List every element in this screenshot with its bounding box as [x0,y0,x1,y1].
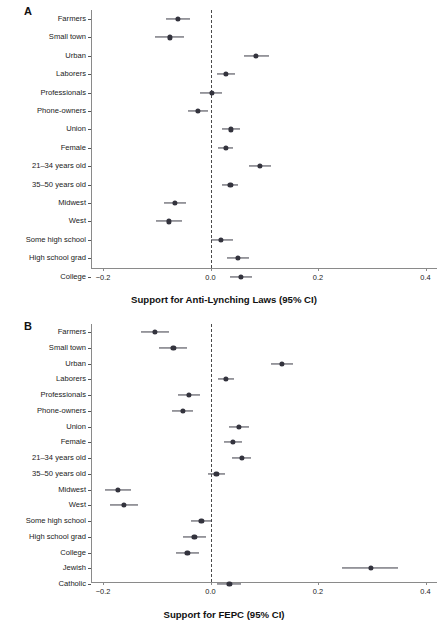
category-label: Female [61,144,86,152]
zero-reference-line [211,10,212,268]
x-axis-tick-label: 0.2 [313,273,323,282]
point-estimate-marker [115,487,120,492]
point-estimate-marker [236,424,241,429]
category-label: Some high school [26,236,86,244]
panel-a-plot-area: −0.20.00.20.4 [91,10,437,278]
y-axis-tick [88,19,91,20]
y-axis-tick [88,505,91,506]
x-axis-tick [318,268,319,271]
category-label: Phone-owners [37,407,86,415]
y-axis-tick [88,364,91,365]
panel-a: A −0.20.00.20.4 FarmersSmall townUrbanLa… [0,0,448,316]
category-label: Small town [49,33,86,41]
category-label: Professionals [40,89,86,97]
y-axis-tick [88,277,91,278]
x-axis-spine [91,582,437,583]
category-label: Laborers [56,70,86,78]
category-label: Farmers [58,328,86,336]
category-label: 35–50 years old [32,181,86,189]
point-estimate-marker [192,534,197,539]
category-label: Female [61,438,86,446]
y-axis-tick [88,185,91,186]
point-estimate-marker [121,503,126,508]
y-axis-tick [88,568,91,569]
category-label: Midwest [58,199,86,207]
category-label: Jewish [63,564,86,572]
point-estimate-marker [223,377,228,382]
point-estimate-marker [235,256,240,261]
y-axis-tick [88,584,91,585]
y-axis-tick [88,93,91,94]
category-label: Urban [65,360,86,368]
y-axis-tick [88,458,91,459]
category-label: West [69,217,86,225]
x-axis-tick [211,268,212,271]
y-axis-tick [88,490,91,491]
y-axis-tick [88,427,91,428]
x-axis-tick-label: 0.4 [420,587,430,596]
point-estimate-marker [167,35,172,40]
zero-reference-line [211,324,212,582]
point-estimate-marker [214,471,219,476]
point-estimate-marker [196,108,201,113]
point-estimate-marker [230,440,235,445]
point-estimate-marker [180,408,185,413]
category-label: 21–34 years old [32,162,86,170]
category-label: High school grad [29,533,86,541]
category-label: Farmers [58,15,86,23]
panel-a-letter: A [24,5,32,17]
category-label: Professionals [40,391,86,399]
panel-b: B −0.20.00.20.4 FarmersSmall townUrbanLa… [0,316,448,632]
y-axis-tick [88,395,91,396]
x-axis-tick [318,582,319,585]
y-axis-tick [88,442,91,443]
x-axis-tick-label: 0.2 [313,587,323,596]
point-estimate-marker [172,200,177,205]
y-axis-tick [88,379,91,380]
x-axis-tick [426,268,427,271]
point-estimate-marker [239,455,244,460]
point-estimate-marker [227,581,232,586]
category-label: High school grad [29,254,86,262]
x-axis-tick-label: 0.0 [205,587,215,596]
y-axis-tick [88,258,91,259]
category-label: Laborers [56,375,86,383]
x-axis-tick-label: 0.0 [205,273,215,282]
point-estimate-marker [175,16,180,21]
point-estimate-marker [152,329,157,334]
point-estimate-marker [228,182,233,187]
x-axis-tick [103,268,104,271]
category-label: Small town [49,344,86,352]
y-axis-tick [88,537,91,538]
category-label: Phone-owners [37,107,86,115]
y-axis-tick [88,203,91,204]
y-axis-tick [88,411,91,412]
x-axis-tick [211,582,212,585]
x-axis-spine [91,268,437,269]
y-axis-tick [88,553,91,554]
y-axis-tick [88,221,91,222]
y-axis-tick [88,111,91,112]
category-label: College [60,549,86,557]
y-axis-tick [88,56,91,57]
point-estimate-marker [209,90,214,95]
point-estimate-marker [199,518,204,523]
y-axis-tick [88,332,91,333]
point-estimate-marker [186,392,191,397]
point-estimate-marker [228,127,233,132]
x-axis-tick-label: −0.2 [96,587,111,596]
category-label: Midwest [58,486,86,494]
point-estimate-marker [219,237,224,242]
x-axis-tick [103,582,104,585]
y-axis-tick [88,37,91,38]
point-estimate-marker [239,274,244,279]
x-axis-tick-label: −0.2 [96,273,111,282]
point-estimate-marker [167,219,172,224]
y-axis-tick [88,521,91,522]
category-label: Some high school [26,517,86,525]
x-axis-tick-label: 0.4 [420,273,430,282]
point-estimate-marker [223,145,228,150]
x-axis-tick [426,582,427,585]
y-axis-tick [88,148,91,149]
point-estimate-marker [223,72,228,77]
